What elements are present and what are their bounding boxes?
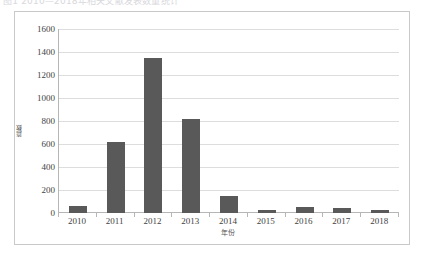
- x-axis-tick-label: 2012: [134, 216, 172, 226]
- bar-2012[interactable]: [144, 58, 162, 213]
- y-axis-tick-label: 800: [21, 116, 55, 126]
- bar-2011[interactable]: [107, 142, 125, 213]
- y-axis-tick-label: 1000: [21, 93, 55, 103]
- bar-2014[interactable]: [220, 196, 238, 213]
- bar-slot: [323, 29, 361, 213]
- y-axis-tick-label: 0: [21, 208, 55, 218]
- chart-frame: 篇数 1600 1400 1200 1000 800 600 400 200 0: [14, 11, 410, 245]
- x-axis-tick-label: 2017: [322, 216, 360, 226]
- x-axis-tick-label: 2013: [171, 216, 209, 226]
- bar-series: [59, 29, 399, 213]
- bar-slot: [135, 29, 173, 213]
- y-axis-tick-label: 400: [21, 162, 55, 172]
- bar-2017[interactable]: [333, 208, 351, 213]
- x-axis-tick-labels: 2010 2011 2012 2013 2014 2015 2016 2017 …: [58, 216, 398, 226]
- bar-slot: [172, 29, 210, 213]
- y-axis-tick-label: 600: [21, 139, 55, 149]
- bar-2015[interactable]: [258, 210, 276, 213]
- figure-caption: 图1 2010—2018年相关文献发表数量统计: [3, 0, 179, 7]
- chart-plot-wrapper: 篇数 1600 1400 1200 1000 800 600 400 200 0: [15, 12, 411, 246]
- bar-slot: [361, 29, 399, 213]
- x-axis-tick-mark: [398, 213, 399, 217]
- y-axis-tick-labels: 1600 1400 1200 1000 800 600 400 200 0: [19, 12, 55, 246]
- y-axis-tick-label: 1600: [21, 24, 55, 34]
- bar-slot: [59, 29, 97, 213]
- figure-caption-strip: 图1 2010—2018年相关文献发表数量统计: [0, 0, 427, 9]
- bar-slot: [286, 29, 324, 213]
- x-axis-tick-label: 2011: [96, 216, 134, 226]
- x-axis-tick-label: 2015: [247, 216, 285, 226]
- bar-2013[interactable]: [182, 119, 200, 213]
- x-axis-title: 年份: [58, 227, 398, 237]
- x-axis-tick-label: 2010: [58, 216, 96, 226]
- bar-slot: [97, 29, 135, 213]
- x-axis-tick-label: 2016: [285, 216, 323, 226]
- y-axis-tick-label: 1200: [21, 70, 55, 80]
- x-axis-tick-label: 2018: [360, 216, 398, 226]
- bar-slot: [210, 29, 248, 213]
- bar-2010[interactable]: [69, 206, 87, 213]
- x-axis-tick-label: 2014: [209, 216, 247, 226]
- plot-area: [58, 29, 398, 213]
- bar-2018[interactable]: [371, 210, 389, 213]
- bar-2016[interactable]: [296, 207, 314, 213]
- bar-slot: [248, 29, 286, 213]
- y-axis-tick-label: 1400: [21, 47, 55, 57]
- y-axis-tick-label: 200: [21, 185, 55, 195]
